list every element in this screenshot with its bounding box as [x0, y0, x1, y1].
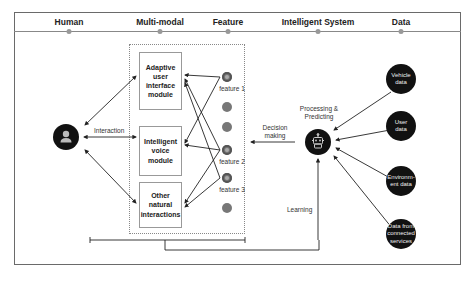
- robot-icon: [305, 129, 331, 155]
- data-source-label: Data from connected services: [386, 223, 416, 246]
- human-node: [53, 124, 79, 150]
- person-icon: [53, 124, 79, 150]
- decision-making-label: Decision making: [257, 124, 293, 140]
- learning-label: Learning: [287, 206, 312, 214]
- data-source-user: User data: [386, 111, 416, 141]
- data-source-label: Vehicle data: [389, 72, 413, 87]
- data-source-vehicle: Vehicle data: [386, 64, 416, 94]
- data-source-connected-services: Data from connected services: [386, 219, 416, 249]
- data-source-label: Environm-ent data: [387, 174, 415, 189]
- intelligent-system-node: [305, 129, 331, 155]
- data-source-environment: Environm-ent data: [386, 166, 416, 196]
- processing-label: Processing & Predicting: [296, 105, 342, 121]
- data-source-label: User data: [391, 119, 411, 134]
- interaction-label: Interaction: [94, 127, 124, 135]
